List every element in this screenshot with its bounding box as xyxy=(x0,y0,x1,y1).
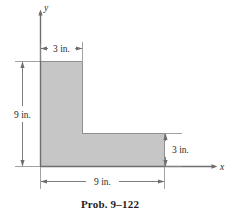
figure-drawing: y x 3 in. 9 in. 3 in. xyxy=(0,0,233,215)
figure-caption: Prob. 9–122 xyxy=(81,198,140,210)
top-dimension-label: 3 in. xyxy=(53,44,70,54)
left-dim-arrow-top-icon xyxy=(20,62,24,69)
top-dim-arrow-right-icon xyxy=(76,46,83,50)
y-axis-arrow-icon xyxy=(38,10,42,16)
bottom-dimension-label: 9 in. xyxy=(94,177,111,187)
left-dimension-label: 9 in. xyxy=(14,110,31,120)
y-axis-label: y xyxy=(43,3,49,13)
right-dimension-label: 3 in. xyxy=(172,145,189,155)
bottom-dim-arrow-right-icon xyxy=(158,179,165,183)
problem-figure: y x 3 in. 9 in. 3 in. xyxy=(0,0,233,215)
l-shape-region xyxy=(41,62,165,167)
x-axis-arrow-icon xyxy=(212,164,218,168)
top-dim-arrow-left-icon xyxy=(41,46,48,50)
x-axis-label: x xyxy=(219,162,225,172)
left-dim-arrow-bottom-icon xyxy=(20,160,24,167)
bottom-dim-arrow-left-icon xyxy=(41,179,48,183)
